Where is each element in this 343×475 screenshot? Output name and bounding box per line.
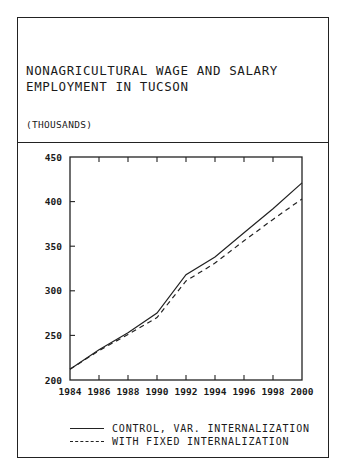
legend: CONTROL, VAR. INTERNALIZATION WITH FIXED… <box>70 422 310 448</box>
x-tick-label: 1984 <box>59 386 82 397</box>
series-line-control <box>70 183 302 369</box>
legend-label-control: CONTROL, VAR. INTERNALIZATION <box>112 422 310 435</box>
dashed-line-swatch-icon <box>70 441 104 442</box>
y-tick-label: 250 <box>45 330 62 341</box>
y-tick-label: 200 <box>45 375 62 386</box>
y-tick-label: 300 <box>45 285 62 296</box>
series-line-fixed <box>70 199 302 369</box>
legend-item-fixed: WITH FIXED INTERNALIZATION <box>70 435 310 448</box>
x-tick-label: 1996 <box>233 386 256 397</box>
x-tick-label: 1994 <box>204 386 227 397</box>
x-tick-label: 1988 <box>117 386 140 397</box>
legend-item-control: CONTROL, VAR. INTERNALIZATION <box>70 422 310 435</box>
y-tick-label: 350 <box>45 241 62 252</box>
y-tick-label: 400 <box>45 196 62 207</box>
x-tick-label: 1998 <box>262 386 285 397</box>
x-tick-label: 1990 <box>146 386 169 397</box>
x-tick-label: 1986 <box>88 386 111 397</box>
y-tick-label: 450 <box>45 152 62 163</box>
x-tick-label: 1992 <box>175 386 198 397</box>
line-chart: 1984198619881990199219941996199820002002… <box>0 0 343 475</box>
x-tick-label: 2000 <box>291 386 314 397</box>
solid-line-swatch-icon <box>70 428 104 429</box>
legend-label-fixed: WITH FIXED INTERNALIZATION <box>112 435 289 448</box>
